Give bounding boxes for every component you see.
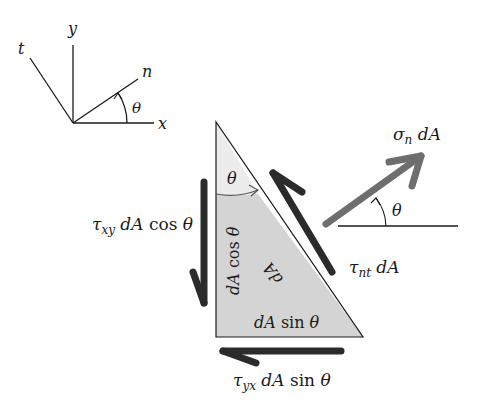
y-axis-label: y — [67, 19, 78, 38]
n-axis-label: n — [142, 62, 152, 81]
x-axis-label: x — [158, 114, 167, 133]
corner-angle-label: θ — [227, 169, 237, 188]
normal-stress-arrow — [326, 156, 421, 224]
triangle-top-region — [216, 122, 258, 194]
left-side-label: dA cos θ — [224, 226, 243, 295]
stress-diagram: y x n t θ θ dA cos θ dA dA sin θ θ σn dA — [0, 0, 479, 408]
shear-yx-label: τyx dA sin θ — [233, 370, 331, 393]
shear-yx-arrow — [223, 351, 341, 363]
t-axis-label: t — [18, 39, 25, 58]
shear-xy-arrow — [193, 182, 204, 303]
normal-force-label: σn dA — [393, 124, 441, 147]
bottom-side-label: dA sin θ — [254, 313, 320, 332]
shear-xy-label: τxy dA cos θ — [92, 214, 193, 237]
n-axis — [73, 79, 138, 123]
axes-angle-label: θ — [132, 99, 141, 117]
normal-angle-arc — [376, 198, 386, 226]
axes-angle-arc — [118, 93, 127, 123]
normal-angle-label: θ — [392, 201, 402, 220]
t-axis — [30, 58, 73, 123]
shear-nt-label: τnt dA — [349, 257, 400, 280]
